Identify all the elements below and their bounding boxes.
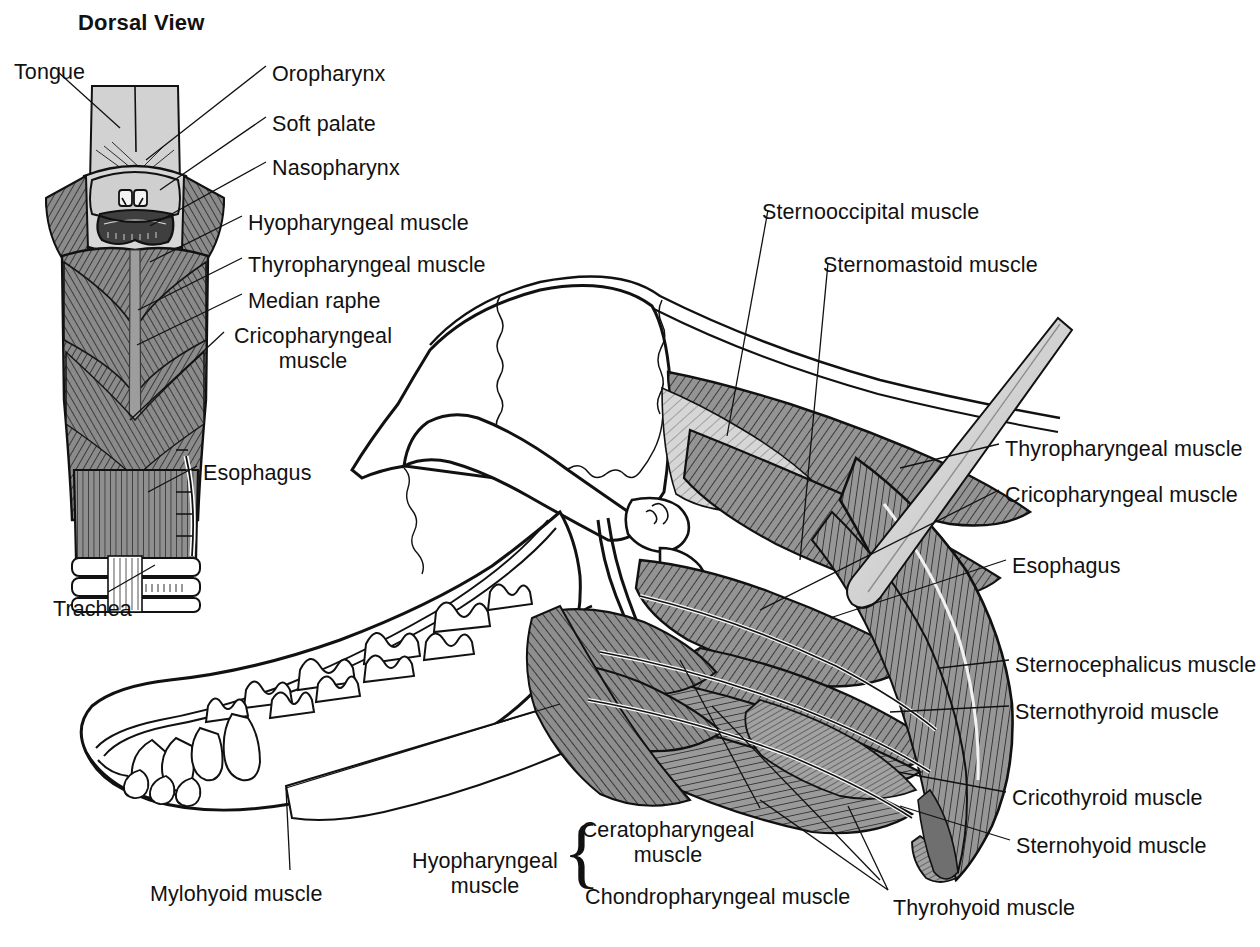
label-chondropharyngeal: Chondropharyngeal muscle: [585, 885, 850, 910]
label-thyropharyngeal-inset: Thyropharyngeal muscle: [248, 253, 486, 278]
glottis-shape: [97, 210, 173, 245]
temporal-suture: [404, 468, 423, 574]
label-esophagus-right: Esophagus: [1012, 554, 1120, 579]
label-cricopharyngeal-inset: Cricopharyngeal muscle: [228, 324, 398, 374]
label-cricopharyngeal-right: Cricopharyngeal muscle: [1005, 483, 1238, 508]
label-hyopharyngeal-group: Hyopharyngeal muscle: [412, 849, 558, 899]
label-sternocephalicus: Sternocephalicus muscle: [1015, 653, 1256, 678]
label-sternothyroid: Sternothyroid muscle: [1015, 700, 1219, 725]
esophagus-segment-inset: [74, 470, 198, 560]
label-oropharynx: Oropharynx: [272, 62, 385, 87]
page-title: Dorsal View: [78, 10, 205, 36]
label-tongue: Tongue: [14, 60, 85, 85]
hyopharyngeal-wing-left: [46, 176, 88, 258]
label-ceratopharyngeal: Ceratopharyngeal muscle: [573, 818, 763, 868]
label-hyopharyngeal-inset: Hyopharyngeal muscle: [248, 211, 469, 236]
label-median-raphe: Median raphe: [248, 289, 381, 314]
figure-canvas: Dorsal View Tongue Oropharynx Soft palat…: [0, 0, 1260, 947]
label-sternooccipital: Sternooccipital muscle: [762, 200, 979, 225]
label-sternohyoid: Sternohyoid muscle: [1016, 834, 1207, 859]
label-trachea: Trachea: [53, 597, 132, 622]
label-sternomastoid: Sternomastoid muscle: [823, 253, 1038, 278]
label-thyropharyngeal-right: Thyropharyngeal muscle: [1005, 437, 1243, 462]
label-soft-palate: Soft palate: [272, 112, 376, 137]
label-esophagus-inset: Esophagus: [203, 461, 311, 486]
label-cricothyroid: Cricothyroid muscle: [1012, 786, 1203, 811]
label-nasopharynx: Nasopharynx: [272, 156, 400, 181]
label-mylohyoid: Mylohyoid muscle: [150, 882, 322, 907]
label-thyrohyoid: Thyrohyoid muscle: [893, 896, 1075, 921]
tympanic-bulla: [626, 498, 689, 552]
